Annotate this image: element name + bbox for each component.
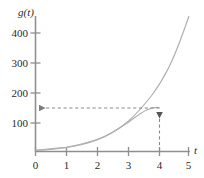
curve-g-of-t [36, 107, 160, 150]
x-tick-label-4: 4 [152, 160, 167, 171]
exponential-growth-chart: g(t) t 400 300 200 100 0 1 2 3 4 5 [0, 0, 204, 178]
y-tick-label-300: 300 [0, 58, 28, 69]
chart-canvas [0, 0, 204, 178]
y-tick-label-200: 200 [0, 88, 28, 99]
x-tick-label-2: 2 [90, 160, 105, 171]
y-tick-label-100: 100 [0, 118, 28, 129]
x-tick-label-0: 0 [28, 160, 43, 171]
x-tick-label-5: 5 [181, 160, 196, 171]
x-tick-label-3: 3 [121, 160, 136, 171]
x-axis-label: t [194, 145, 197, 156]
x-tick-label-1: 1 [59, 160, 74, 171]
y-axis-label: g(t) [18, 7, 34, 18]
y-tick-label-400: 400 [0, 28, 28, 39]
curve-g-of-t-upper [36, 16, 190, 150]
